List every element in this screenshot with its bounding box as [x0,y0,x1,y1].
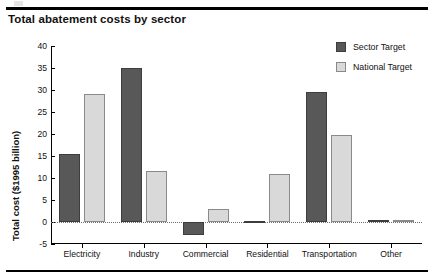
bar-group [113,46,175,244]
x-axis-tick-mark [206,244,207,248]
bar-sector-target[interactable] [59,154,80,222]
bar-pair [236,46,298,244]
y-axis-tick-label: -5 [21,240,47,248]
bar-group [236,46,298,244]
bar-sector-target[interactable] [368,220,389,222]
figure-container: Total abatement costs by sector Total co… [0,0,434,280]
y-axis-tick-label: 35 [21,64,47,72]
bar-national-target[interactable] [269,174,290,222]
y-axis-tick-label: 25 [21,108,47,116]
legend-swatch-sector-target [336,42,346,52]
legend-label-sector-target: Sector Target [353,42,405,52]
y-axis-tick-label: 15 [21,152,47,160]
chart-legend: Sector Target National Target [336,42,412,82]
x-axis-tick-mark [144,244,145,248]
bar-group [51,46,113,244]
bar-sector-target[interactable] [244,221,265,223]
x-axis-tick-mark [329,244,330,248]
bar-national-target[interactable] [331,135,352,222]
x-axis-label-industry: Industry [128,249,159,259]
page-title: Total abatement costs by sector [8,13,186,25]
legend-item-sector-target: Sector Target [336,42,412,52]
x-axis-tick-mark [82,244,83,248]
x-axis-label-commercial: Commercial [183,249,229,259]
y-axis-tick-label: 10 [21,174,47,182]
bar-pair [51,46,113,244]
x-axis-label-transportation: Transportation [302,249,357,259]
bar-group [175,46,237,244]
legend-label-national-target: National Target [353,62,412,72]
chart-area: Total cost ($1995 billion) -505101520253… [0,36,434,268]
y-axis-tick-mark [51,244,55,245]
legend-item-national-target: National Target [336,62,412,72]
bar-national-target[interactable] [146,171,167,222]
title-rule-top [6,7,428,10]
x-axis-label-electricity: Electricity [64,249,101,259]
y-axis-tick-label: 5 [21,196,47,204]
bar-pair [113,46,175,244]
y-axis-tick-label: 30 [21,86,47,94]
x-axis-tick-mark [267,244,268,248]
y-axis-tick-label: 0 [21,218,47,226]
x-axis-tick-mark [391,244,392,248]
x-axis-label-residential: Residential [246,249,289,259]
page-artifact [14,1,23,6]
bar-national-target[interactable] [393,220,414,222]
y-axis-tick-label: 20 [21,130,47,138]
bar-national-target[interactable] [84,94,105,222]
footer-rule [6,270,428,272]
y-axis-title: Total cost ($1995 billion) [6,92,17,106]
bar-sector-target[interactable] [183,222,204,235]
bar-pair [175,46,237,244]
y-axis-title-label: Total cost ($1995 billion) [10,227,21,241]
x-axis-label-other: Other [380,249,402,259]
bar-sector-target[interactable] [121,68,142,222]
y-axis-tick-label: 40 [21,42,47,50]
legend-swatch-national-target [336,62,346,72]
bar-sector-target[interactable] [306,92,327,222]
bar-national-target[interactable] [208,209,229,222]
